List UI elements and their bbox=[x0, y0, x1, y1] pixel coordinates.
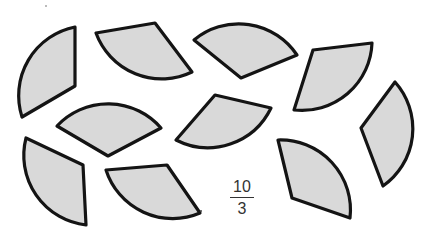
stray-dot bbox=[200, 210, 202, 212]
sector-8 bbox=[24, 138, 86, 225]
sector-7 bbox=[176, 95, 271, 148]
fraction-label: 10 3 bbox=[226, 178, 258, 218]
sectors-figure bbox=[0, 0, 440, 242]
sector-5 bbox=[361, 82, 413, 186]
sector-10 bbox=[278, 140, 350, 218]
sector-6 bbox=[57, 104, 161, 156]
fraction-bar bbox=[230, 197, 254, 198]
fraction-numerator: 10 bbox=[226, 178, 258, 196]
sector-2 bbox=[96, 23, 192, 79]
fraction-denominator: 3 bbox=[226, 200, 258, 218]
sector-4 bbox=[294, 43, 372, 110]
sector-9 bbox=[106, 165, 200, 219]
sector-1 bbox=[19, 27, 75, 117]
sector-3 bbox=[194, 24, 297, 78]
scan-speck bbox=[45, 5, 47, 7]
